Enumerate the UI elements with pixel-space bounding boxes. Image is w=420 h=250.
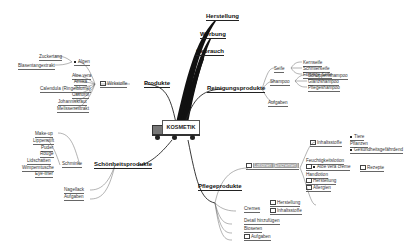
leaf[interactable]: Inhaltsstoffe [270,208,302,215]
center-label: KOSMETIK [162,120,200,135]
leaf[interactable]: Eye-liner [35,171,53,178]
note-icon [244,234,250,239]
node-wirkstoffe[interactable]: Wirkstoffe [100,81,127,88]
leaf[interactable]: Herstellung [306,178,336,185]
note-icon [306,178,312,183]
bullet-icon [313,166,315,168]
note-icon [246,163,252,168]
node-lotionen[interactable]: Lotionen (Eincremen) [246,163,299,170]
node-aufgaben[interactable]: Aufgaben [64,194,84,201]
note-icon [360,165,366,170]
leaf[interactable]: Bioseren [244,226,262,233]
leaf[interactable]: Rouge [40,151,54,158]
branch-schoenheitsprodukte[interactable]: Schönheitsprodukte [94,162,152,169]
node-schminke[interactable]: Schminke [62,161,82,168]
wheel [172,135,177,140]
leaf[interactable]: Herstellung [270,200,300,207]
leaf[interactable]: Gesundheitsgefährdend [350,147,403,154]
leaf[interactable]: Tiere [350,134,364,141]
node-rezepte[interactable]: Rezepte [360,165,384,172]
bullet-icon [74,61,76,63]
bullet-icon [350,149,352,151]
note-icon [310,140,316,145]
node-shampoo[interactable]: Shampoo [270,79,290,86]
branch-gebrauch[interactable]: Gebrauch [196,49,224,56]
wheel [155,135,160,140]
wheel [190,135,195,140]
leaf[interactable]: Allergien [306,185,331,192]
leaf[interactable]: Make-up [35,131,53,138]
leaf[interactable]: Zuckertang [39,54,62,61]
note-icon [306,185,312,190]
leaf[interactable]: Lidschatten [27,158,51,165]
leaf[interactable]: Arnika [74,79,87,86]
branch-werbung[interactable]: Werbung [200,32,226,39]
branch-pflegeprodukte[interactable]: Pflegeprodukte [198,184,242,191]
branch-produkte[interactable]: Produkte [144,81,170,88]
leaf[interactable]: Aufgaben [244,234,271,241]
leaf[interactable]: Castorol [72,92,89,99]
leaf[interactable]: Aloe vera creme [306,164,350,171]
leaf[interactable]: Melissenextrakt [57,106,89,113]
leaf[interactable]: Pflegeshampoo [308,85,340,92]
note-icon [306,164,312,169]
center-topic[interactable]: KOSMETIK [152,120,200,142]
node-aufgaben[interactable]: Aufgaben [268,100,288,107]
note-icon [270,200,276,205]
note-icon [100,81,106,86]
node-cremes[interactable]: Cremes [244,206,260,213]
node-nagellack[interactable]: Nagellack [64,187,84,194]
branch-reinigungsprodukte[interactable]: Reinigungsprodukte [207,86,265,93]
leaf[interactable]: Blasentangextrakt [18,63,55,70]
node-seife[interactable]: Seife [274,66,284,73]
node-algen[interactable]: Algen [74,59,90,66]
leaf[interactable]: Johanniskraut [58,99,87,106]
note-icon [270,208,276,213]
leaf[interactable]: Lippenstift [33,138,54,145]
leaf[interactable]: Detail hinzufügen [244,218,280,225]
node-inhaltsstoffe[interactable]: Inhaltsstoffe [310,140,342,147]
bullet-icon [350,136,352,138]
branch-herstellung[interactable]: Herstellung [206,14,239,21]
